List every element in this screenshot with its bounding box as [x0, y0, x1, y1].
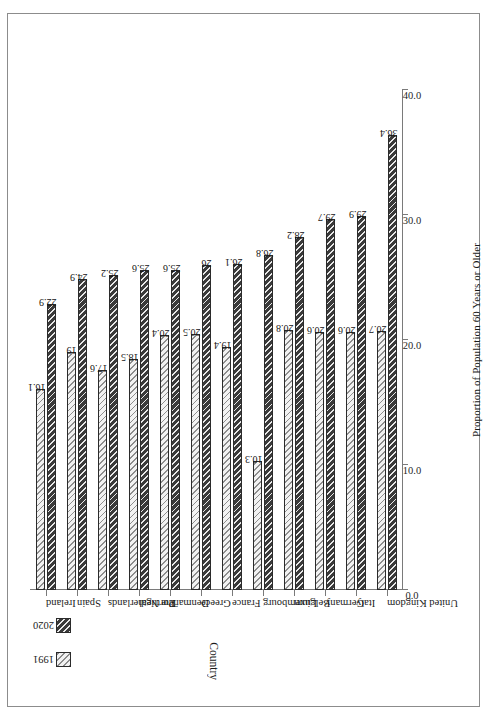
value-axis-tick-label: 30.0: [403, 215, 421, 226]
bar-value-label: 25.2: [101, 268, 119, 279]
bar-1991: [191, 334, 200, 590]
value-axis-tick-label: 40.0: [403, 90, 421, 101]
bar-value-label: 10.3: [245, 454, 263, 465]
bar-value-label: 25.6: [163, 263, 181, 274]
bar-value-label: 19.4: [214, 340, 232, 351]
bar-2020: [233, 264, 242, 590]
bar-value-label: 26.8: [256, 248, 274, 259]
bar-1991: [315, 333, 324, 591]
category-axis-title: Country: [208, 642, 220, 680]
bar-1991: [222, 348, 231, 591]
chart-legend: 1991 2020: [38, 615, 71, 670]
bar-1991: [160, 335, 169, 590]
category-axis-tick: [232, 590, 233, 596]
bar-1991: [377, 331, 386, 590]
bar-2020: [140, 270, 149, 590]
value-axis-tick-label: 10.0: [403, 465, 421, 476]
bar-value-label: 17.6: [90, 363, 108, 374]
bar-2020: [388, 135, 397, 590]
legend-label-1991: 1991: [33, 654, 54, 665]
chart-frame: Proportion of Population 60 Years or Old…: [7, 13, 480, 707]
legend-swatch-1991: [56, 652, 71, 667]
legend-item-2020: 2020: [38, 615, 71, 636]
bar-value-label: 20.6: [307, 325, 325, 336]
bar-2020: [295, 238, 304, 591]
bar-2020: [357, 216, 366, 590]
bar-1991: [253, 461, 262, 590]
bar-value-label: 22.9: [39, 296, 57, 307]
bar-value-label: 19: [67, 345, 77, 356]
bar-1991: [98, 370, 107, 590]
bar-1991: [36, 389, 45, 590]
legend-label-2020: 2020: [33, 620, 54, 631]
bar-2020: [171, 270, 180, 590]
category-axis-tick: [170, 590, 171, 596]
bar-value-label: 16.1: [28, 381, 46, 392]
category-axis-tick: [294, 590, 295, 596]
bar-value-label: 26.1: [225, 256, 243, 267]
category-axis-tick: [387, 590, 388, 596]
bar-value-label: 20.6: [338, 325, 356, 336]
bar-value-label: 20.5: [183, 326, 201, 337]
category-axis-tick: [108, 590, 109, 596]
bar-value-label: 24.9: [70, 271, 88, 282]
bar-value-label: 25.6: [132, 263, 150, 274]
category-axis-tick: [201, 590, 202, 596]
bar-2020: [47, 304, 56, 590]
bar-value-label: 29.7: [318, 211, 336, 222]
category-axis-tick: [356, 590, 357, 596]
category-axis-tick: [139, 590, 140, 596]
category-axis-tick: [77, 590, 78, 596]
category-axis-label: United Kingdom: [387, 598, 493, 609]
bar-1991: [284, 330, 293, 590]
bar-value-label: 29.9: [349, 209, 367, 220]
legend-item-1991: 1991: [38, 649, 71, 670]
bar-value-label: 20.4: [152, 328, 170, 339]
category-axis-tick: [325, 590, 326, 596]
category-axis-tick: [263, 590, 264, 596]
value-axis-tick-label: 20.0: [403, 340, 421, 351]
legend-swatch-2020: [56, 618, 71, 633]
bar-1991: [346, 333, 355, 591]
bar-2020: [326, 219, 335, 590]
bar-1991: [129, 359, 138, 590]
category-axis-tick: [46, 590, 47, 596]
bar-2020: [78, 279, 87, 590]
bar-value-label: 26: [202, 258, 212, 269]
bar-2020: [109, 275, 118, 590]
bar-value-label: 28.2: [287, 230, 305, 241]
bar-value-label: 20.7: [369, 324, 387, 335]
bar-2020: [264, 255, 273, 590]
bar-value-label: 36.4: [380, 128, 398, 139]
bar-1991: [67, 353, 76, 591]
bar-value-label: 20.8: [276, 323, 294, 334]
bar-2020: [202, 265, 211, 590]
value-axis-title: Proportion of Population 60 Years or Old…: [470, 90, 482, 590]
chart-stage: Proportion of Population 60 Years or Old…: [8, 14, 481, 708]
bar-value-label: 18.5: [121, 351, 139, 362]
